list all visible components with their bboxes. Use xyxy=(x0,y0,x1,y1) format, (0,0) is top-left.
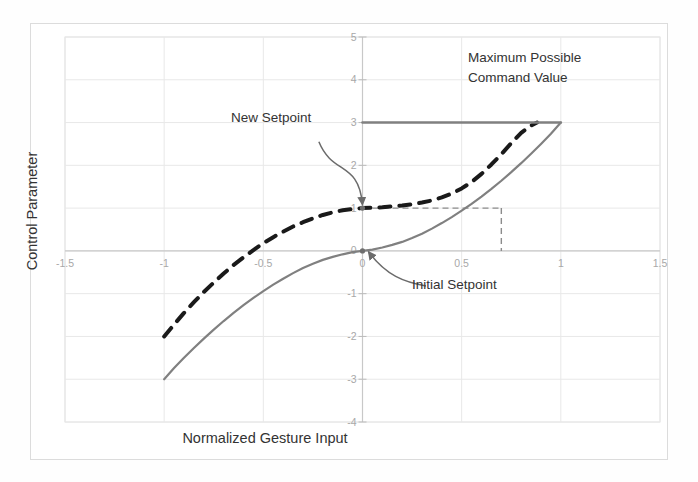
annotation-maximum-command-value: Maximum Possible Command Value xyxy=(468,48,581,87)
y-axis-title-label: Control Parameter xyxy=(24,152,40,270)
y-tick-label-1: -3 xyxy=(347,373,356,385)
y-axis-title: Control Parameter xyxy=(21,131,43,291)
x-tick-label-3: 0 xyxy=(360,257,366,269)
x-tick-label-1: -1 xyxy=(159,257,168,269)
y-tick-label-2: -2 xyxy=(347,330,356,342)
annotation-initial-setpoint: Initial Setpoint xyxy=(412,275,497,295)
y-tick-label-3: -1 xyxy=(347,287,356,299)
x-axis-title: Normalized Gesture Input xyxy=(65,425,465,451)
x-tick-label-5: 1 xyxy=(558,257,564,269)
annotation-new-setpoint: New Setpoint xyxy=(231,108,311,128)
y-tick-label-9: 5 xyxy=(351,31,357,43)
x-tick-label-4: 0.5 xyxy=(454,257,469,269)
x-axis-title-label: Normalized Gesture Input xyxy=(182,430,347,446)
annotation-max-line2: Command Value xyxy=(468,68,581,88)
marker-new-setpoint xyxy=(360,206,365,211)
chart-plot: -1.5-1-0.500.511.5-4-3-2-1012345 xyxy=(0,0,698,482)
annotation-max-line1: Maximum Possible xyxy=(468,48,581,68)
y-tick-label-6: 2 xyxy=(351,159,357,171)
y-tick-label-7: 3 xyxy=(351,116,357,128)
x-tick-label-6: 1.5 xyxy=(653,257,668,269)
x-tick-label-0: -1.5 xyxy=(56,257,74,269)
y-tick-label-8: 4 xyxy=(351,73,357,85)
x-tick-label-2: -0.5 xyxy=(254,257,272,269)
marker-initial-setpoint xyxy=(360,248,365,253)
figure-canvas: -1.5-1-0.500.511.5-4-3-2-1012345 Control… xyxy=(0,0,698,482)
y-tick-label-4: 0 xyxy=(351,244,357,256)
